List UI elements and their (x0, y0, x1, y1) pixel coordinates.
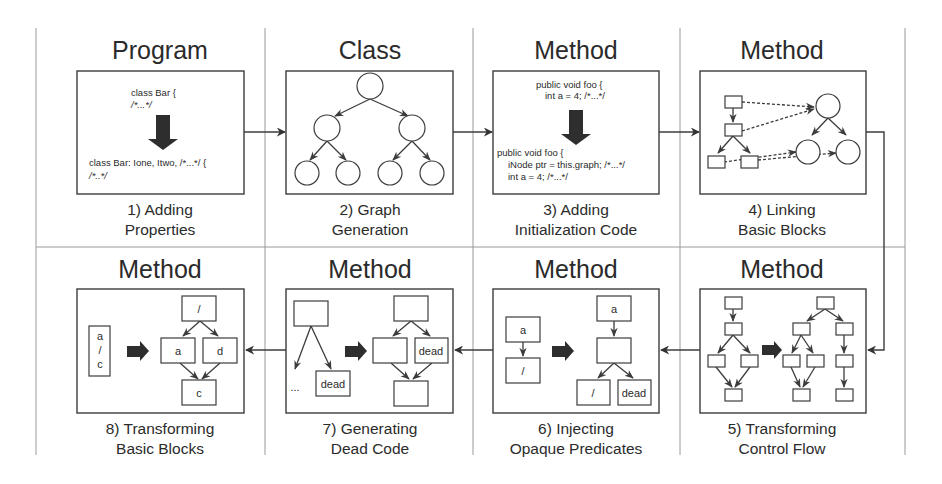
flow-arrow-connector (866, 132, 884, 350)
panel-scope-title: Method (740, 255, 823, 283)
panel-7-generating-dead-code: Method ... dead dead 7) Generating Dead … (286, 255, 453, 457)
panel-caption: Dead Code (331, 440, 409, 457)
panel-1-adding-properties: Program class Bar { /*...*/ class Bar: I… (77, 36, 244, 238)
panel-scope-title: Method (534, 255, 617, 283)
code-line: class Bar: Ione, Itwo, /*...*/ { (89, 157, 206, 168)
node-label: ... (290, 381, 299, 393)
panel-caption: Basic Blocks (116, 440, 204, 457)
node-label: d (217, 345, 223, 357)
panel-caption: Basic Blocks (738, 221, 826, 238)
panel-caption: 4) Linking (748, 201, 815, 218)
panel-scope-title: Method (328, 255, 411, 283)
panel-caption: 8) Transforming (106, 420, 215, 437)
panel-scope-title: Method (534, 36, 617, 64)
code-line: public void foo { (536, 79, 603, 90)
basic-block-before: a / c (89, 326, 110, 376)
code-line: int a = 4; /*...*/ (545, 90, 605, 101)
panel-caption: 2) Graph (339, 201, 400, 218)
panel-caption: Opaque Predicates (510, 440, 643, 457)
node-label: dead (321, 378, 345, 390)
panel-scope-title: Method (740, 36, 823, 64)
panel-8-transforming-basic-blocks: Method a / c / a d c 8) Transforming B (77, 255, 244, 457)
code-line: public void foo { (497, 147, 564, 158)
panel-5-transforming-control-flow: Method (700, 255, 866, 457)
node-label: dead (419, 345, 443, 357)
panel-caption: 3) Adding (543, 201, 609, 218)
panel-caption: 7) Generating (323, 420, 418, 437)
node-label: a (611, 303, 618, 315)
node-label: a (97, 330, 104, 342)
panel-scope-title: Class (339, 36, 402, 64)
panel-caption: 1) Adding (127, 201, 193, 218)
panel-4-linking-basic-blocks: Method 4) Linking Basic Blocks (700, 36, 866, 238)
node-label: dead (622, 387, 646, 399)
panel-caption: 5) Transforming (728, 420, 837, 437)
panel-caption: Generation (332, 221, 409, 238)
pipeline-diagram: Program class Bar { /*...*/ class Bar: I… (0, 0, 942, 484)
code-line: class Bar { (131, 87, 176, 98)
panel-caption: Initialization Code (515, 221, 637, 238)
panel-caption: Properties (125, 221, 196, 238)
code-line: int a = 4; /*...*/ (508, 171, 568, 182)
panel-6-injecting-opaque-predicates: Method a / a / dead 6) Injecting Opaque … (493, 255, 659, 457)
code-line: /*..*/ (88, 170, 108, 181)
panel-2-graph-generation: Class 2) Graph Generation (286, 36, 453, 238)
node-label: c (196, 387, 202, 399)
panel-caption: Control Flow (739, 440, 827, 457)
panel-caption: 6) Injecting (538, 420, 614, 437)
node-label: a (520, 324, 527, 336)
panel-scope-title: Method (118, 255, 201, 283)
node-label: a (175, 345, 182, 357)
code-line: /*...*/ (130, 99, 153, 110)
node-label: c (97, 358, 103, 370)
panel-scope-title: Program (112, 36, 208, 64)
code-line: iNode ptr = this.graph; /*...*/ (508, 159, 625, 170)
panel-3-adding-initialization-code: Method public void foo { int a = 4; /*..… (493, 36, 659, 238)
